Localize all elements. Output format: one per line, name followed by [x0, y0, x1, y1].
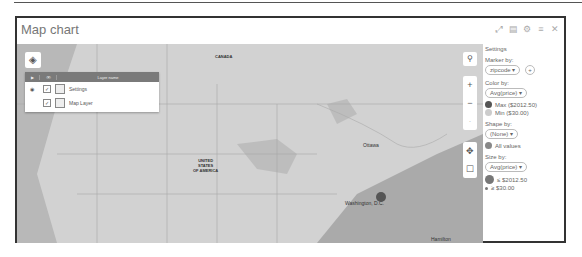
active-radio[interactable]: ◉ [25, 86, 39, 92]
list-icon[interactable]: ≡ [536, 24, 546, 35]
chevron-down-icon: ▾ [512, 67, 515, 73]
zoom-in-button[interactable]: + [463, 76, 477, 94]
chevron-down-icon: ▾ [519, 90, 522, 96]
size-min-swatch [485, 187, 488, 190]
expand-col-icon[interactable]: ▶ [25, 75, 40, 80]
size-by-value: Avg(price) [490, 164, 517, 170]
chevron-down-icon: ▾ [519, 164, 522, 170]
size-max-swatch [485, 175, 494, 184]
layer-panel-header: ▶ 👁 Layer name [25, 72, 159, 82]
color-legend-min: Min ($30.00) [485, 109, 565, 116]
search-icon: ⚲ [467, 54, 473, 63]
data-point-marker[interactable] [376, 192, 386, 202]
size-legend-max: ≤ $2012.50 [485, 175, 565, 184]
layers-button[interactable]: ◈ [25, 52, 41, 68]
map-label-usa: UNITED STATES OF AMERICA [193, 158, 218, 173]
visibility-checkbox[interactable]: ✓ [43, 99, 51, 107]
map-canvas[interactable]: CANADA UNITED STATES OF AMERICA Ottawa W… [17, 44, 483, 243]
color-min-label: Min ($30.00) [495, 110, 529, 116]
tool-controls: ✥ ☐ [463, 142, 477, 178]
size-by-dropdown[interactable]: Avg(price) ▾ [485, 162, 527, 172]
layer-panel: ▶ 👁 Layer name ◉ ✓ Settings ✓ Map Layer [25, 72, 159, 112]
marker-by-value: zipcode [490, 67, 511, 73]
color-max-label: Max ($2012.50) [495, 102, 537, 108]
map-label-ottawa: Ottawa [363, 142, 379, 148]
shape-by-dropdown[interactable]: (None) ▾ [485, 129, 518, 139]
size-max-label: ≤ $2012.50 [497, 177, 527, 183]
size-by-label: Size by: [485, 154, 565, 160]
window-controls: ⤢ ▤ ⚙ ≡ ✕ [494, 24, 560, 35]
visibility-checkbox[interactable]: ✓ [43, 85, 51, 93]
color-by-label: Color by: [485, 80, 565, 86]
size-legend-min: ≥ $30.00 [485, 185, 565, 191]
zoom-controls: + − · [463, 76, 477, 130]
color-legend-max: Max ($2012.50) [485, 101, 565, 108]
select-tool-button[interactable]: ☐ [463, 160, 477, 178]
shape-swatch[interactable] [485, 142, 492, 149]
size-min-label: ≥ $30.00 [491, 185, 514, 191]
reset-zoom-button[interactable]: · [463, 112, 477, 130]
settings-title: Settings [485, 46, 565, 52]
shape-by-value: (None) [490, 131, 508, 137]
map-label-hamilton: Hamilton [431, 236, 451, 242]
layers-icon: ◈ [29, 54, 37, 65]
layer-name-header: Layer name [57, 75, 159, 80]
chevron-down-icon: ▾ [510, 131, 513, 137]
window-title: Map chart [21, 22, 79, 37]
gear-icon[interactable]: ⚙ [522, 24, 532, 35]
copy-icon[interactable]: ▤ [508, 24, 518, 35]
pan-tool-button[interactable]: ✥ [463, 142, 477, 160]
layer-icon [55, 98, 65, 108]
map-label-canada: CANADA [215, 54, 232, 59]
layer-row-map-layer[interactable]: ✓ Map Layer [25, 96, 159, 110]
top-divider [14, 2, 582, 3]
map-chart-window: Map chart ⤢ ▤ ⚙ ≡ ✕ CANADA UNI [15, 16, 566, 243]
close-icon[interactable]: ✕ [550, 24, 560, 35]
expand-icon[interactable]: ⤢ [494, 24, 504, 35]
shape-by-label: Shape by: [485, 121, 565, 127]
layer-icon [55, 84, 65, 94]
layer-row-settings[interactable]: ◉ ✓ Settings [25, 82, 159, 96]
max-color-swatch[interactable] [485, 101, 492, 108]
add-marker-button[interactable]: + [525, 65, 535, 75]
settings-panel: Settings Marker by: zipcode ▾ + Color by… [485, 44, 565, 191]
visibility-col-icon[interactable]: 👁 [40, 75, 57, 80]
shape-legend: All values [485, 142, 565, 149]
color-by-dropdown[interactable]: Avg(price) ▾ [485, 88, 527, 98]
shape-all-label: All values [495, 143, 521, 149]
layer-name: Settings [69, 86, 87, 92]
search-button[interactable]: ⚲ [463, 52, 477, 66]
zoom-out-button[interactable]: − [463, 94, 477, 112]
color-by-value: Avg(price) [490, 90, 517, 96]
min-color-swatch[interactable] [485, 109, 492, 116]
marker-by-dropdown[interactable]: zipcode ▾ [485, 65, 520, 75]
layer-name: Map Layer [69, 100, 93, 106]
